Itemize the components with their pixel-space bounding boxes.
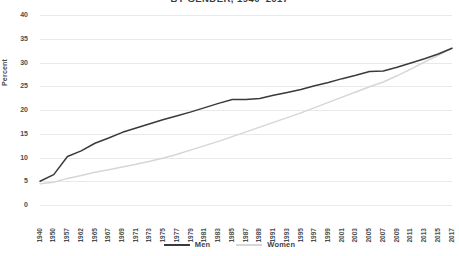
y-axis-tick-label: 10: [6, 154, 28, 161]
chart-title: BY GENDER, 1940–2017: [0, 0, 459, 4]
legend-entry-women[interactable]: Women: [236, 240, 295, 249]
y-axis-tick-label: 20: [6, 106, 28, 113]
series-layer: [40, 15, 452, 205]
plot-area: 0510152025303540: [40, 15, 452, 205]
y-axis-tick-label: 30: [6, 59, 28, 66]
legend-swatch-icon: [236, 244, 262, 246]
y-axis-tick-label: 40: [6, 11, 28, 18]
legend-label: Women: [267, 240, 295, 249]
y-axis-tick-label: 5: [6, 177, 28, 184]
series-line-men: [40, 48, 452, 181]
y-axis-tick-label: 0: [6, 201, 28, 208]
legend-label: Men: [195, 240, 211, 249]
y-axis-tick-label: 15: [6, 130, 28, 137]
y-axis-tick-label: 35: [6, 35, 28, 42]
legend-entry-men[interactable]: Men: [164, 240, 211, 249]
x-axis-tick-labels: 1940195019571962196519671969197119731975…: [40, 206, 452, 242]
y-axis-tick-label: 25: [6, 82, 28, 89]
chart-legend: MenWomen: [0, 240, 459, 249]
legend-swatch-icon: [164, 244, 190, 246]
line-chart: BY GENDER, 1940–2017 Percent 05101520253…: [0, 0, 459, 256]
